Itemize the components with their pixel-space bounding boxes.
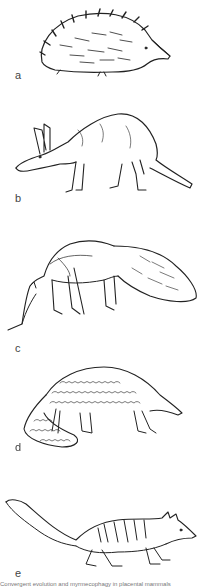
- panel-c: c: [0, 210, 201, 350]
- panel-label-a: a: [15, 70, 21, 81]
- aardvark-illustration: [0, 100, 201, 210]
- giant-anteater-illustration: [0, 210, 201, 350]
- panel-b: b: [0, 100, 201, 210]
- numbat-illustration: [0, 460, 201, 580]
- panel-label-c: c: [15, 343, 21, 354]
- panel-a: a: [0, 0, 201, 95]
- pangolin-illustration: [0, 355, 201, 455]
- panel-label-e: e: [15, 568, 21, 579]
- panel-label-b: b: [15, 193, 21, 204]
- panel-label-d: d: [15, 442, 21, 453]
- panel-d: d: [0, 355, 201, 455]
- figure-caption: Convergent evolution and myrmecophagy in…: [0, 580, 201, 588]
- echidna-illustration: [0, 0, 201, 95]
- panel-e: e: [0, 460, 201, 580]
